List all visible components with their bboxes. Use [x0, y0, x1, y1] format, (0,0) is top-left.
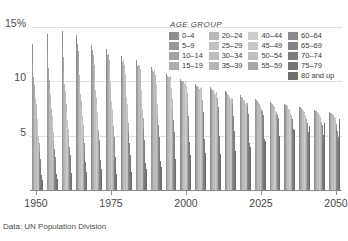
x-axis-label: 2000: [174, 197, 197, 209]
legend-label: 55–59: [261, 61, 282, 70]
legend-title: AGE GROUP: [169, 20, 341, 29]
legend-swatch-icon: [209, 62, 219, 70]
x-axis-tick: [186, 191, 187, 195]
x-axis-tick: [36, 191, 37, 195]
legend-swatch-icon: [288, 72, 298, 80]
legend-label: 15–19: [182, 61, 203, 70]
legend-swatch-icon: [169, 52, 179, 60]
age-group-bar: [235, 151, 236, 190]
legend-label: 10–14: [182, 51, 203, 60]
age-group-bar: [131, 172, 132, 190]
age-group-bar: [324, 123, 325, 190]
legend-swatch-icon: [288, 52, 298, 60]
legend-label: 60–64: [301, 31, 322, 40]
legend-item[interactable]: 45–49: [248, 41, 288, 50]
age-group-bar: [339, 119, 340, 190]
legend-swatch-icon: [209, 32, 219, 40]
legend-swatch-icon: [248, 42, 258, 50]
year-cluster: [136, 27, 147, 190]
legend-swatch-icon: [248, 32, 258, 40]
legend-label: 45–49: [261, 41, 282, 50]
age-group-bar: [57, 179, 58, 190]
age-group-bar: [250, 147, 251, 190]
x-axis-tick: [261, 191, 262, 195]
age-group-bar: [279, 136, 280, 190]
age-group-bar: [220, 154, 221, 190]
legend-item[interactable]: 55–59: [248, 61, 288, 70]
legend-swatch-icon: [288, 42, 298, 50]
legend-column: 20–2425–2930–3435–39: [209, 31, 249, 80]
legend-swatch-icon: [288, 32, 298, 40]
age-group-bar: [265, 141, 266, 190]
age-group-bar: [146, 169, 147, 190]
legend-label: 5–9: [182, 41, 195, 50]
legend-label: 40–44: [261, 31, 282, 40]
x-axis-tick: [111, 191, 112, 195]
year-cluster: [76, 27, 87, 190]
legend-item[interactable]: 30–34: [209, 51, 249, 60]
legend-item[interactable]: 25–29: [209, 41, 249, 50]
legend-column: 60–6465–6970–7475–7980 and up: [288, 31, 341, 80]
legend-item[interactable]: 60–64: [288, 31, 341, 40]
legend-label: 0–4: [182, 31, 195, 40]
age-group-bar: [161, 167, 162, 190]
legend-item[interactable]: 20–24: [209, 31, 249, 40]
legend-swatch-icon: [288, 62, 298, 70]
legend-label: 50–54: [261, 51, 282, 60]
legend-label: 35–39: [222, 61, 243, 70]
year-cluster: [106, 27, 117, 190]
y-axis-label-10: 10: [0, 71, 26, 83]
legend-swatch-icon: [209, 42, 219, 50]
legend-item[interactable]: 15–19: [169, 61, 209, 70]
year-cluster: [32, 27, 43, 190]
age-group-bar: [116, 174, 117, 190]
age-group-bar: [175, 164, 176, 190]
legend-label: 70–74: [301, 51, 322, 60]
age-group-bar: [205, 157, 206, 190]
year-cluster: [151, 27, 162, 190]
legend-label: 65–69: [301, 41, 322, 50]
age-group-bar: [42, 180, 43, 190]
legend-item[interactable]: 50–54: [248, 51, 288, 60]
y-axis-label-5: 5: [0, 126, 26, 138]
legend-item[interactable]: 10–14: [169, 51, 209, 60]
legend-item[interactable]: 75–79: [288, 61, 341, 70]
legend-label: 20–24: [222, 31, 243, 40]
y-axis-label-15: 15%: [0, 17, 26, 29]
legend-item[interactable]: 35–39: [209, 61, 249, 70]
year-cluster: [47, 27, 58, 190]
age-group-bar: [101, 176, 102, 190]
age-group-bar: [86, 177, 87, 190]
source-caption: Data: UN Population Division: [3, 222, 106, 231]
legend-label: 25–29: [222, 41, 243, 50]
legend-item[interactable]: 65–69: [288, 41, 341, 50]
legend-swatch-icon: [248, 52, 258, 60]
legend-item[interactable]: 40–44: [248, 31, 288, 40]
age-group-bar: [309, 126, 310, 190]
legend-item[interactable]: 0–4: [169, 31, 209, 40]
year-cluster: [91, 27, 102, 190]
x-axis-tick: [336, 191, 337, 195]
x-axis-label: 1950: [24, 197, 47, 209]
legend-swatch-icon: [169, 62, 179, 70]
legend-label: 75–79: [301, 61, 322, 70]
legend-swatch-icon: [169, 32, 179, 40]
year-cluster: [62, 27, 73, 190]
age-group-bar: [71, 178, 72, 190]
legend: AGE GROUP 0–45–910–1415–1920–2425–2930–3…: [169, 20, 341, 80]
age-group-bar: [294, 130, 295, 190]
x-axis-label: 2050: [324, 197, 347, 209]
age-group-bar: [190, 161, 191, 190]
legend-column: 40–4445–4950–5455–59: [248, 31, 288, 80]
legend-item[interactable]: 70–74: [288, 51, 341, 60]
legend-label: 80 and up: [301, 71, 334, 80]
legend-item[interactable]: 5–9: [169, 41, 209, 50]
year-cluster: [121, 27, 132, 190]
legend-label: 30–34: [222, 51, 243, 60]
legend-columns: 0–45–910–1415–1920–2425–2930–3435–3940–4…: [169, 31, 341, 80]
x-axis-label: 2025: [249, 197, 272, 209]
legend-swatch-icon: [209, 52, 219, 60]
x-axis-label: 1975: [99, 197, 122, 209]
legend-item[interactable]: 80 and up: [288, 71, 341, 80]
